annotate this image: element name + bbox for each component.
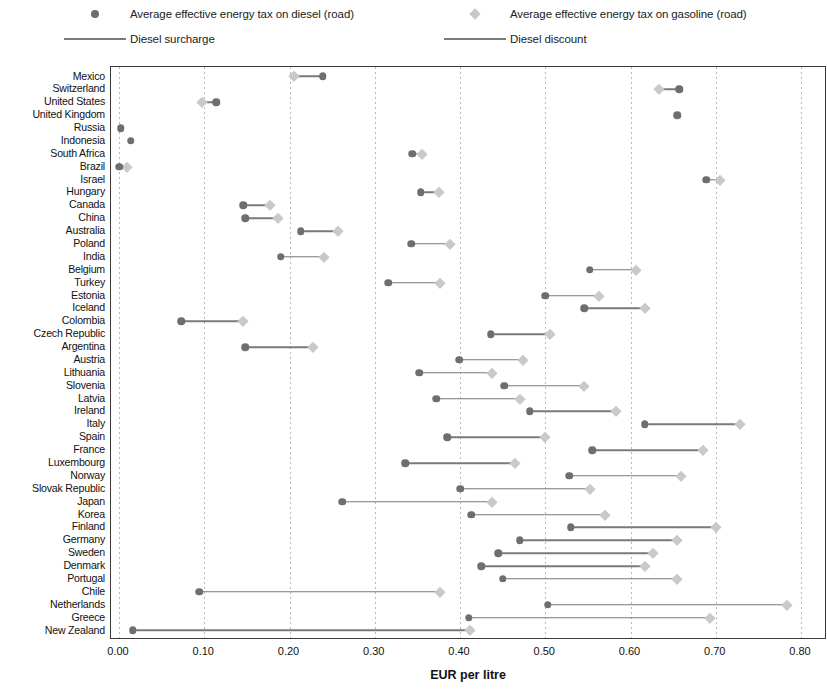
- gasoline-marker[interactable]: [121, 161, 132, 172]
- diesel-marker[interactable]: [432, 395, 440, 403]
- gasoline-marker[interactable]: [514, 393, 525, 404]
- gasoline-marker[interactable]: [647, 548, 658, 559]
- gasoline-marker[interactable]: [465, 625, 476, 636]
- diesel-marker[interactable]: [581, 305, 589, 313]
- data-row[interactable]: [111, 302, 825, 316]
- data-row[interactable]: [111, 224, 825, 238]
- diesel-marker[interactable]: [499, 575, 507, 583]
- data-row[interactable]: [111, 250, 825, 264]
- data-row[interactable]: [111, 95, 825, 109]
- data-row[interactable]: [111, 482, 825, 496]
- diesel-marker[interactable]: [487, 330, 495, 338]
- diesel-marker[interactable]: [526, 408, 534, 416]
- data-row[interactable]: [111, 108, 825, 122]
- data-row[interactable]: [111, 624, 825, 638]
- data-row[interactable]: [111, 211, 825, 225]
- gasoline-marker[interactable]: [698, 445, 709, 456]
- data-row[interactable]: [111, 572, 825, 586]
- diesel-marker[interactable]: [565, 472, 573, 480]
- gasoline-marker[interactable]: [540, 432, 551, 443]
- data-row[interactable]: [111, 456, 825, 470]
- data-row[interactable]: [111, 199, 825, 213]
- diesel-marker[interactable]: [415, 369, 423, 377]
- data-row[interactable]: [111, 186, 825, 200]
- gasoline-marker[interactable]: [704, 612, 715, 623]
- gasoline-marker[interactable]: [487, 496, 498, 507]
- diesel-marker[interactable]: [443, 433, 451, 441]
- diesel-marker[interactable]: [319, 73, 327, 81]
- gasoline-marker[interactable]: [781, 599, 792, 610]
- diesel-marker[interactable]: [675, 86, 683, 94]
- data-row[interactable]: [111, 327, 825, 341]
- diesel-marker[interactable]: [495, 549, 503, 557]
- diesel-marker[interactable]: [544, 601, 552, 609]
- diesel-marker[interactable]: [516, 537, 524, 545]
- diesel-marker[interactable]: [542, 292, 550, 300]
- gasoline-marker[interactable]: [600, 509, 611, 520]
- diesel-marker[interactable]: [467, 511, 475, 519]
- diesel-marker[interactable]: [417, 189, 425, 197]
- gasoline-marker[interactable]: [545, 329, 556, 340]
- data-row[interactable]: [111, 289, 825, 303]
- gasoline-marker[interactable]: [518, 355, 529, 366]
- diesel-marker[interactable]: [409, 150, 417, 158]
- diesel-marker[interactable]: [277, 253, 285, 261]
- gasoline-marker[interactable]: [672, 574, 683, 585]
- data-row[interactable]: [111, 276, 825, 290]
- gasoline-marker[interactable]: [196, 97, 207, 108]
- diesel-marker[interactable]: [385, 279, 393, 287]
- data-row[interactable]: [111, 392, 825, 406]
- diesel-marker[interactable]: [588, 446, 596, 454]
- data-row[interactable]: [111, 263, 825, 277]
- data-row[interactable]: [111, 379, 825, 393]
- diesel-marker[interactable]: [501, 382, 509, 390]
- data-row[interactable]: [111, 121, 825, 135]
- gasoline-marker[interactable]: [307, 342, 318, 353]
- data-row[interactable]: [111, 353, 825, 367]
- gasoline-marker[interactable]: [611, 406, 622, 417]
- diesel-marker[interactable]: [241, 214, 249, 222]
- gasoline-marker[interactable]: [510, 458, 521, 469]
- gasoline-marker[interactable]: [318, 252, 329, 263]
- gasoline-marker[interactable]: [671, 535, 682, 546]
- gasoline-marker[interactable]: [435, 277, 446, 288]
- gasoline-marker[interactable]: [417, 148, 428, 159]
- diesel-marker[interactable]: [339, 498, 347, 506]
- data-row[interactable]: [111, 405, 825, 419]
- data-row[interactable]: [111, 430, 825, 444]
- data-row[interactable]: [111, 366, 825, 380]
- gasoline-marker[interactable]: [578, 380, 589, 391]
- data-row[interactable]: [111, 147, 825, 161]
- data-row[interactable]: [111, 134, 825, 148]
- diesel-marker[interactable]: [115, 163, 123, 171]
- diesel-marker[interactable]: [297, 227, 305, 235]
- gasoline-marker[interactable]: [653, 84, 664, 95]
- data-row[interactable]: [111, 559, 825, 573]
- diesel-marker[interactable]: [567, 524, 575, 532]
- diesel-marker[interactable]: [641, 421, 649, 429]
- data-row[interactable]: [111, 598, 825, 612]
- gasoline-marker[interactable]: [640, 303, 651, 314]
- diesel-marker[interactable]: [241, 343, 249, 351]
- diesel-marker[interactable]: [195, 588, 203, 596]
- data-row[interactable]: [111, 443, 825, 457]
- data-row[interactable]: [111, 508, 825, 522]
- diesel-marker[interactable]: [456, 485, 464, 493]
- gasoline-marker[interactable]: [715, 174, 726, 185]
- data-row[interactable]: [111, 611, 825, 625]
- diesel-marker[interactable]: [478, 562, 486, 570]
- diesel-marker[interactable]: [703, 176, 711, 184]
- data-row[interactable]: [111, 585, 825, 599]
- diesel-marker[interactable]: [240, 202, 248, 210]
- gasoline-marker[interactable]: [734, 419, 745, 430]
- diesel-marker[interactable]: [586, 266, 594, 274]
- gasoline-marker[interactable]: [710, 522, 721, 533]
- diesel-marker[interactable]: [402, 459, 410, 467]
- gasoline-marker[interactable]: [272, 213, 283, 224]
- data-row[interactable]: [111, 340, 825, 354]
- gasoline-marker[interactable]: [435, 587, 446, 598]
- gasoline-marker[interactable]: [486, 368, 497, 379]
- gasoline-marker[interactable]: [265, 200, 276, 211]
- diesel-marker[interactable]: [212, 99, 220, 107]
- diesel-marker[interactable]: [127, 137, 135, 145]
